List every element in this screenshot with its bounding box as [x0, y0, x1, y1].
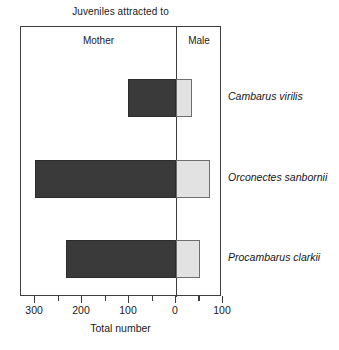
x-axis-tick-label: 100: [202, 304, 242, 316]
x-axis-tick-minor: [58, 296, 59, 301]
chart-title: Juveniles attracted to: [20, 6, 221, 17]
bar-segment-male: [176, 160, 210, 198]
bar-segment-mother: [66, 240, 176, 278]
category-label: Cambarus virilis: [228, 90, 303, 102]
bar-row: [21, 160, 222, 198]
bar-segment-mother: [128, 79, 176, 117]
x-axis-tick-label: 0: [155, 304, 195, 316]
x-axis-tick-label: 100: [108, 304, 148, 316]
x-axis-tick-major: [175, 296, 176, 303]
category-label: Orconectes sanbornii: [228, 171, 327, 183]
chart-container: Juveniles attracted to Mother Male Camba…: [0, 0, 339, 350]
bar-segment-mother: [35, 160, 176, 198]
x-axis-tick-minor: [105, 296, 106, 301]
x-axis-tick-major: [128, 296, 129, 303]
bar-row: [21, 79, 222, 117]
bar-segment-male: [176, 79, 192, 117]
panel-header-mother: Mother: [21, 35, 176, 46]
bar-segment-male: [176, 240, 200, 278]
x-axis-tick-minor: [198, 296, 199, 301]
x-axis-title: Total number: [20, 322, 221, 334]
panel-header-male: Male: [176, 35, 222, 46]
x-axis-tick-label: 300: [14, 304, 54, 316]
x-axis-tick-minor: [152, 296, 153, 301]
bar-row: [21, 240, 222, 278]
category-label: Procambarus clarkii: [228, 251, 320, 263]
x-axis-tick-major: [222, 296, 223, 303]
x-axis-tick-major: [34, 296, 35, 303]
plot-frame: Mother Male: [20, 26, 221, 296]
x-axis-tick-label: 200: [61, 304, 101, 316]
x-axis-tick-major: [81, 296, 82, 303]
